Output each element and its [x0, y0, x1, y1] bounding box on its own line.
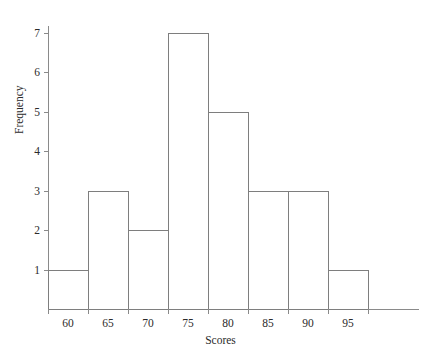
x-tick-label-85: 85 — [248, 317, 288, 330]
y-tick-label-2: 2 — [14, 224, 40, 236]
x-tick-mark — [88, 309, 89, 314]
y-tick-mark-4 — [44, 151, 49, 152]
x-tick-mark — [328, 309, 329, 314]
histogram-chart: Frequency 1 2 3 4 5 6 7 60 65 70 75 80 8… — [0, 0, 441, 359]
x-tick-mark — [168, 309, 169, 314]
x-tick-mark — [248, 309, 249, 314]
histogram-bar — [328, 270, 369, 310]
x-tick-label-65: 65 — [88, 317, 128, 330]
x-tick-label-75: 75 — [168, 317, 208, 330]
y-tick-mark-7 — [44, 33, 49, 34]
x-tick-mark — [288, 309, 289, 314]
x-tick-mark — [48, 309, 49, 314]
y-axis-title: Frequency — [12, 120, 26, 134]
x-axis-title: Scores — [0, 333, 441, 347]
y-tick-mark-6 — [44, 72, 49, 73]
y-tick-mark-2 — [44, 230, 49, 231]
histogram-bar — [168, 33, 209, 310]
y-tick-mark-5 — [44, 112, 49, 113]
y-tick-mark-3 — [44, 191, 49, 192]
y-tick-label-3: 3 — [14, 185, 40, 197]
y-tick-label-1: 1 — [14, 264, 40, 276]
histogram-bar — [88, 191, 129, 310]
y-tick-label-6: 6 — [14, 66, 40, 78]
x-tick-label-90: 90 — [288, 317, 328, 330]
x-tick-label-80: 80 — [208, 317, 248, 330]
y-tick-label-5: 5 — [14, 106, 40, 118]
x-tick-label-70: 70 — [128, 317, 168, 330]
histogram-bar — [288, 191, 329, 310]
y-axis-line — [48, 26, 49, 310]
histogram-bar — [208, 112, 249, 310]
histogram-bar — [128, 230, 169, 310]
x-tick-label-95: 95 — [328, 317, 368, 330]
x-tick-mark — [368, 309, 369, 314]
x-tick-mark — [208, 309, 209, 314]
histogram-bar — [48, 270, 89, 310]
y-tick-label-4: 4 — [14, 145, 40, 157]
x-tick-label-60: 60 — [48, 317, 88, 330]
histogram-bar — [248, 191, 289, 310]
y-tick-label-7: 7 — [14, 27, 40, 39]
x-tick-mark — [128, 309, 129, 314]
